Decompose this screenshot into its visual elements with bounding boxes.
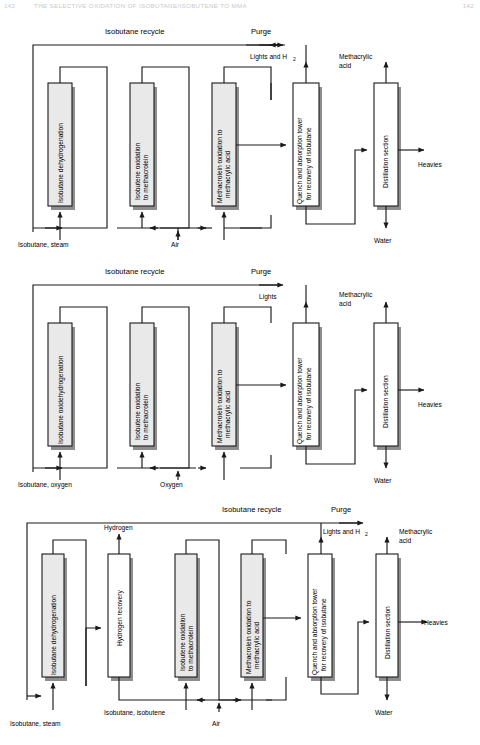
block-label-isobutene-oxidation-l2: to methacrolein xyxy=(142,155,149,200)
output-label-methacrylic-acid-3-l2: acid xyxy=(399,537,411,544)
output-label-water-3: Water xyxy=(375,709,393,716)
block-label-distillation-section: Distillation section xyxy=(382,135,389,188)
output-label-lights-and-h2-3: Lights and H xyxy=(323,528,360,536)
output-label-heavies-2: Heavies xyxy=(418,401,443,408)
block-label-isobutene-oxidation-2-l2: to methacrolein xyxy=(142,395,149,440)
block-label-quench-tower-l2: for recovery of isobutane xyxy=(305,127,313,200)
diagram-route-2: Isobutane recycle Purge Isobutane oxideh… xyxy=(18,267,443,489)
block-label-methacrolein-oxidation-l1: Methacrolein oxidation to xyxy=(216,129,223,203)
block-label-distillation-section-3: Distillation section xyxy=(384,606,391,659)
block-label-isobutene-oxidation-2-l1: Isobutene oxidation xyxy=(134,382,141,440)
label-purge-3: Purge xyxy=(331,505,351,514)
block-label-methacrolein-oxidation-3-l1: Methacrolein oxidation to xyxy=(245,600,252,674)
label-purge: Purge xyxy=(251,27,271,36)
block-label-quench-tower-3-l1: Quench and absorption tower xyxy=(311,588,319,675)
feed-label-isobutane-steam-3: Isobutane, steam xyxy=(10,720,61,727)
label-isobutane-recycle-2: Isobutane recycle xyxy=(105,267,165,276)
output-label-lights-and-h2: Lights and H xyxy=(250,53,287,61)
feed-label-isobutane-isobutene: Isobutane, isobutene xyxy=(104,709,166,716)
output-label-methacrylic-acid-3-l1: Methacrylic xyxy=(399,528,433,536)
label-isobutane-recycle-3: Isobutane recycle xyxy=(222,505,282,514)
output-label-lights-h2-3-subscript: 2 xyxy=(365,531,368,537)
output-label-methacrylic-acid-l1: Methacrylic xyxy=(339,53,373,61)
block-label-methacrolein-oxidation-2-l1: Methacrolein oxidation to xyxy=(216,369,223,443)
output-label-methacrylic-acid-l2: acid xyxy=(339,62,351,69)
block-label-methacrolein-oxidation-2-l2: methacrylic acid xyxy=(224,390,232,438)
label-purge-2: Purge xyxy=(251,267,271,276)
block-label-quench-tower-3-l2: for recovery of isobutane xyxy=(320,598,328,671)
process-flow-figure: Isobutane recycle Purge Isobutane deh xyxy=(0,0,480,745)
output-label-methacrylic-acid-2-l1: Methacrylic xyxy=(339,291,373,299)
feed-label-air: Air xyxy=(171,241,180,248)
block-label-isobutene-oxidation-l1: Isobutene oxidation xyxy=(134,142,141,200)
block-label-isobutane-dehydrogenation-3: Isobutane dehydrogenation xyxy=(50,595,58,675)
feed-label-oxygen: Oxygen xyxy=(160,481,183,489)
feed-label-isobutane-steam: Isobutane, steam xyxy=(18,241,69,248)
block-label-quench-tower-l1: Quench and absorption tower xyxy=(296,117,304,204)
diagram-route-3: Isobutane recycle Purge Isobutane dehydr… xyxy=(10,505,449,727)
block-label-quench-tower-2-l1: Quench and absorption tower xyxy=(296,357,304,444)
block-label-isobutane-oxidehydrogenation: Isobutane oxidehydrogenation xyxy=(57,355,65,444)
block-label-isobutane-dehydrogenation: Isobutane dehydrogenation xyxy=(57,123,65,203)
feed-label-isobutane-oxygen: Isobutane, oxygen xyxy=(18,481,72,489)
block-label-isobutene-oxidation-3-l2: to methacrolein xyxy=(187,626,194,671)
output-label-water: Water xyxy=(374,237,392,244)
block-label-methacrolein-oxidation-l2: methacrylic acid xyxy=(224,150,232,198)
output-label-water-2: Water xyxy=(374,477,392,484)
output-label-hydrogen: Hydrogen xyxy=(104,524,133,532)
diagram-route-1: Isobutane recycle Purge Isobutane deh xyxy=(18,27,443,248)
feed-label-air-3: Air xyxy=(212,720,221,727)
block-label-quench-tower-2-l2: for recovery of isobutane xyxy=(305,367,313,440)
output-label-heavies: Heavies xyxy=(418,161,443,168)
block-label-distillation-section-2: Distillation section xyxy=(382,375,389,428)
block-label-hydrogen-recovery: Hydrogen recovery xyxy=(116,590,124,646)
label-isobutane-recycle: Isobutane recycle xyxy=(105,27,165,36)
output-label-heavies-3: Heavies xyxy=(424,619,449,626)
output-label-methacrylic-acid-2-l2: acid xyxy=(339,300,351,307)
output-label-lights-h2-subscript: 2 xyxy=(293,56,296,62)
figure-page: 142 THE SELECTIVE OXIDATION OF ISOBUTANE… xyxy=(0,0,480,745)
block-label-isobutene-oxidation-3-l1: Isobutene oxidation xyxy=(179,613,186,671)
output-label-lights-2: Lights xyxy=(259,293,277,301)
block-label-methacrolein-oxidation-3-l2: methacrylic acid xyxy=(253,621,261,669)
